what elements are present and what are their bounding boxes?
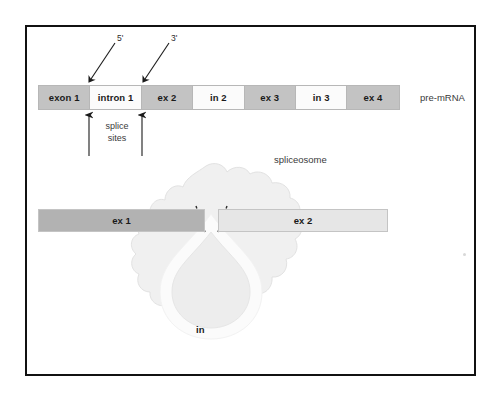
figure-canvas: exon 1 intron 1 ex 2 in 2 ex 3 in 3 ex 4… — [0, 0, 497, 396]
three-prime-label: 3' — [171, 33, 177, 43]
segment-intron-1: intron 1 — [90, 86, 141, 109]
segment-exon-3: ex 3 — [245, 86, 296, 109]
splice-sites-label: splice sites — [100, 121, 134, 144]
pre-mrna-bar: exon 1 intron 1 ex 2 in 2 ex 3 in 3 ex 4 — [38, 85, 400, 110]
spliced-exon-1-bar: ex 1 — [38, 209, 205, 232]
stray-speck — [463, 253, 466, 256]
spliced-exon-2-bar: ex 2 — [218, 209, 388, 232]
spliceosome-label: spliceosome — [274, 154, 327, 165]
segment-exon-1: exon 1 — [39, 86, 90, 109]
splice-sites-line-1: splice — [100, 121, 134, 133]
splice-sites-line-2: sites — [100, 133, 134, 145]
five-prime-label: 5' — [117, 33, 123, 43]
segment-intron-3: in 3 — [296, 86, 347, 109]
figure-border-frame — [25, 25, 476, 376]
segment-exon-4: ex 4 — [347, 86, 398, 109]
segment-intron-2: in 2 — [193, 86, 244, 109]
segment-exon-2: ex 2 — [142, 86, 193, 109]
intron-loop-label: in — [196, 324, 204, 335]
pre-mrna-label: pre-mRNA — [420, 92, 465, 103]
